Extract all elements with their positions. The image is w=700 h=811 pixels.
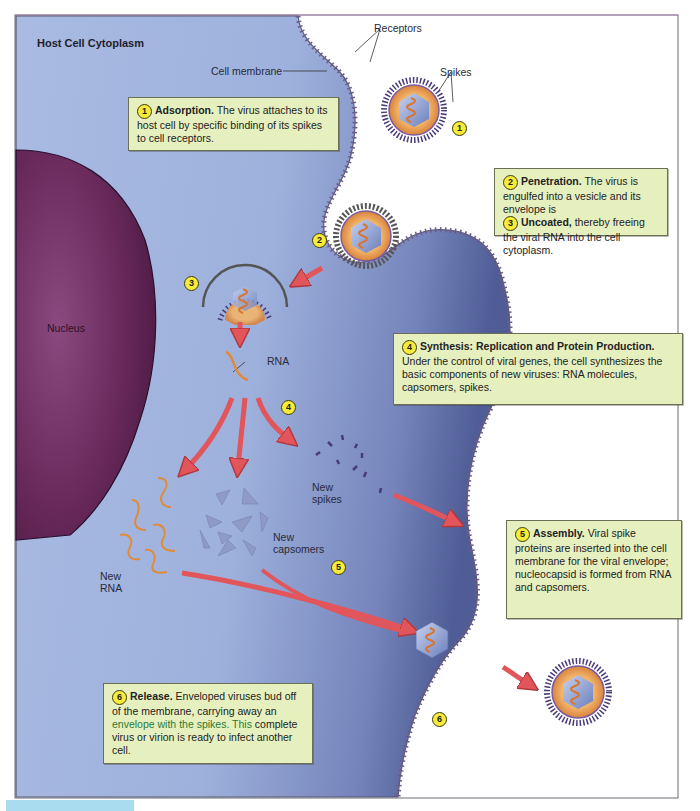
- page-edge-bar: [6, 800, 134, 811]
- receptors-label: Receptors: [374, 22, 422, 34]
- step-heading: Assembly.: [533, 527, 585, 539]
- new-rna-label: NewRNA: [100, 570, 122, 594]
- step-marker-6: 6: [432, 712, 447, 727]
- step-marker-5: 5: [331, 560, 346, 575]
- callout-assembly: 5Assembly. Viral spike proteins are inse…: [506, 520, 682, 619]
- step-number: 1: [137, 104, 152, 119]
- figure-title: Host Cell Cytoplasm: [37, 37, 144, 49]
- step-marker-3: 3: [184, 276, 199, 291]
- step-description: Under the control of viral genes, the ce…: [402, 355, 662, 393]
- rna-label: RNA: [267, 355, 289, 367]
- step-number: 2: [503, 175, 518, 190]
- step-number: 5: [515, 527, 530, 542]
- step-heading: Uncoated,: [521, 216, 572, 228]
- step-description-highlight: envelope with the spikes. This: [112, 718, 252, 730]
- step-marker-4: 4: [281, 400, 296, 415]
- new-capsomers-label: Newcapsomers: [273, 531, 324, 555]
- callout-release: 6Release. Enveloped viruses bud off of t…: [103, 683, 313, 764]
- step-heading: Synthesis: Replication and Protein Produ…: [420, 340, 655, 352]
- step-marker-1: 1: [452, 121, 467, 136]
- new-spikes-label: Newspikes: [312, 481, 342, 505]
- step-number: 3: [503, 216, 518, 231]
- cell-membrane-label: Cell membrane: [211, 65, 282, 77]
- step-heading: Adsorption.: [155, 104, 214, 116]
- spikes-label: Spikes: [440, 66, 472, 78]
- step-marker-2: 2: [312, 233, 327, 248]
- callout-synthesis: 4Synthesis: Replication and Protein Prod…: [393, 333, 683, 405]
- step-heading: Penetration.: [521, 175, 582, 187]
- callout-penetration-uncoating: 2Penetration. The virus is engulfed into…: [494, 168, 668, 236]
- step-heading: Release.: [130, 690, 173, 702]
- step-number: 6: [112, 690, 127, 705]
- viral-replication-diagram: Host Cell Cytoplasm Cell membrane Recept…: [0, 0, 700, 811]
- callout-adsorption: 1Adsorption. The virus attaches to its h…: [128, 97, 339, 151]
- step-number: 4: [402, 340, 417, 355]
- nucleus-label: Nucleus: [47, 322, 85, 334]
